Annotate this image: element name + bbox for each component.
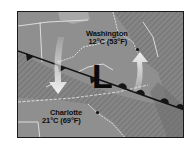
city-label-washington: Washington 12°C (53°F)	[86, 30, 128, 46]
city-label-charlotte: Charlotte 21°C (69°F)	[42, 109, 82, 125]
city-temp: 12°C (53°F)	[88, 38, 128, 46]
weather-map: L Washington 12°C (53°F) Charlotte 21°C …	[17, 11, 184, 138]
city-dot-charlotte	[96, 111, 99, 114]
city-dot-washington	[136, 48, 139, 51]
city-temp: 21°C (69°F)	[42, 117, 82, 125]
low-pressure-symbol: L	[92, 59, 113, 93]
